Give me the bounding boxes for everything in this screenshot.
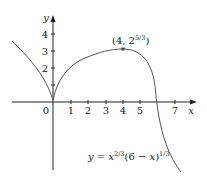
x-tick-label: 3	[103, 105, 109, 116]
function-equation-label: y = x2/3(6 − x)1/3	[87, 150, 170, 162]
y-axis-arrow-icon	[51, 15, 56, 22]
max-point-marker	[122, 48, 125, 51]
x-axis-arrow-icon	[190, 100, 197, 105]
y-axis-label: y	[42, 12, 49, 23]
function-graph: 1 2 3 4 5 7 0 x 2 3 4 y (4, 25/3) y = x2…	[0, 0, 207, 180]
x-axis-label: x	[188, 105, 194, 116]
y-tick-label: 2	[42, 63, 48, 74]
x-tick-label: 2	[85, 105, 91, 116]
x-tick-label: 1	[68, 105, 74, 116]
x-tick-label: 4	[120, 105, 126, 116]
x-tick-label: 7	[172, 105, 178, 116]
origin-label: 0	[43, 105, 49, 116]
y-tick-label: 4	[42, 29, 48, 40]
x-tick-label: 5	[137, 105, 143, 116]
max-point-label: (4, 25/3)	[112, 34, 149, 46]
y-tick-label: 3	[42, 46, 48, 57]
